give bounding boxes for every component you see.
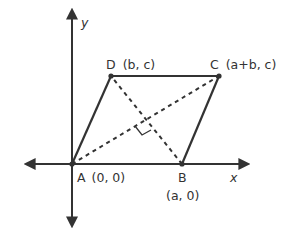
label-a: A (0, 0) bbox=[77, 170, 125, 185]
y-axis-label: y bbox=[80, 15, 89, 30]
side-cb bbox=[182, 76, 219, 164]
vertex-b bbox=[179, 161, 184, 166]
vertex-c bbox=[216, 73, 221, 78]
label-c: C (a+b, c) bbox=[210, 57, 276, 72]
vertex-d bbox=[108, 73, 113, 78]
label-d: D (b, c) bbox=[106, 57, 155, 72]
x-axis-label: x bbox=[229, 170, 238, 185]
label-b-coords: (a, 0) bbox=[166, 188, 199, 203]
diagonal-bd bbox=[111, 76, 182, 164]
vertex-a bbox=[69, 161, 74, 166]
side-ad bbox=[72, 76, 111, 164]
label-b: B bbox=[178, 170, 187, 185]
parallelogram-diagram: y x D (b, c) C (a+b, c) A (0, 0) B (a, 0… bbox=[0, 0, 295, 239]
right-angle-marker bbox=[135, 126, 151, 135]
